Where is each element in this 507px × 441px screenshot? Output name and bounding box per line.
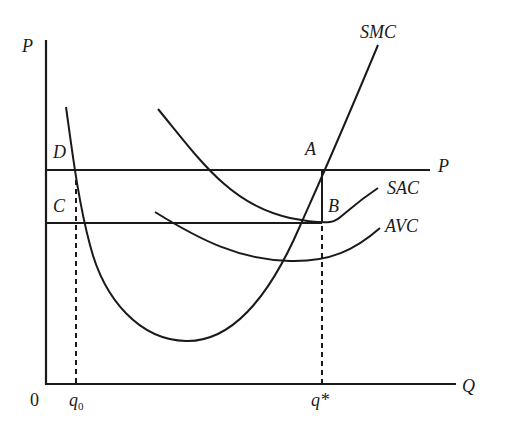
sac-label: SAC (387, 178, 420, 198)
origin-label: 0 (30, 390, 39, 410)
sac-curve (158, 109, 378, 222)
q0-label-subscript: 0 (78, 400, 84, 412)
cost-curves-diagram: P Q 0 q0 q* SMC SAC AVC P A B C D (0, 0, 507, 441)
avc-curve (155, 212, 380, 261)
smc-curve (66, 45, 378, 341)
avc-label: AVC (384, 216, 419, 236)
point-b-label: B (328, 196, 339, 216)
x-axis-label: Q (462, 376, 475, 396)
q0-label: q0 (69, 390, 84, 412)
qstar-label: q* (311, 390, 329, 410)
point-c-label: C (53, 196, 66, 216)
point-d-label: D (52, 142, 66, 162)
point-a-label: A (304, 139, 317, 159)
smc-label: SMC (360, 22, 397, 42)
y-axis-label: P (21, 36, 33, 56)
price-line-label: P (437, 156, 449, 176)
q0-label-main: q (69, 390, 78, 410)
